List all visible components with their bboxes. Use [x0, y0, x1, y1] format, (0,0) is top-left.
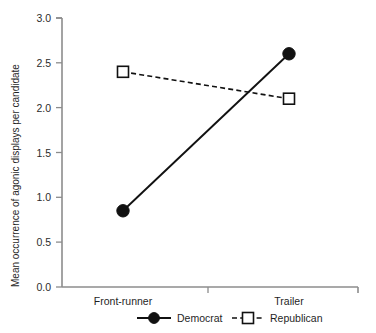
y-tick-label: 1.5 — [36, 147, 51, 159]
chart-legend: Democrat Republican — [137, 312, 323, 324]
legend-item-democrat: Democrat — [137, 312, 223, 324]
y-tick-label: 0.0 — [36, 281, 51, 293]
series-republican — [118, 66, 295, 104]
republican-line — [123, 72, 289, 99]
democrat-point-front-runner — [117, 205, 129, 217]
y-axis-title: Mean occurrence of agonic displays per c… — [10, 64, 21, 287]
x-category-label-trailer: Trailer — [274, 295, 304, 307]
democrat-line — [123, 54, 289, 211]
y-axis-tick-labels: 3.0 2.5 2.0 1.5 1.0 0.5 0.0 — [36, 12, 51, 293]
legend-republican-marker-icon — [243, 313, 254, 324]
legend-democrat-marker-icon — [149, 313, 160, 324]
series-democrat — [117, 48, 295, 217]
republican-point-front-runner — [118, 66, 129, 77]
y-axis-ticks — [56, 18, 62, 287]
legend-republican-label: Republican — [270, 312, 323, 324]
democrat-point-trailer — [283, 48, 295, 60]
y-tick-label: 2.0 — [36, 102, 51, 114]
republican-point-trailer — [284, 93, 295, 104]
legend-democrat-label: Democrat — [177, 312, 223, 324]
y-tick-label: 3.0 — [36, 12, 51, 24]
chart-figure: Mean occurrence of agonic displays per c… — [0, 0, 376, 333]
y-tick-label: 1.0 — [36, 191, 51, 203]
y-tick-label: 0.5 — [36, 236, 51, 248]
x-category-label-front-runner: Front-runner — [94, 295, 153, 307]
line-chart: Mean occurrence of agonic displays per c… — [0, 0, 376, 333]
y-tick-label: 2.5 — [36, 57, 51, 69]
legend-item-republican: Republican — [232, 312, 323, 324]
